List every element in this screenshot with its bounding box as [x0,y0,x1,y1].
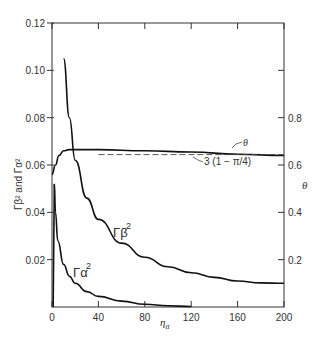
chart: 040801201602000.020.040.060.080.100.120.… [0,0,322,348]
x-tick-label: 120 [183,312,200,323]
y-tick-left-label: 0.06 [26,160,46,171]
y-tick-right-label: 0.4 [288,207,302,218]
y-tick-left-label: 0.02 [26,255,46,266]
asymptote-leader [193,157,203,162]
x-tick-label: 200 [276,312,293,323]
x-tick-label: 0 [49,312,55,323]
y-tick-right-label: 0.6 [288,160,302,171]
theta-leader [232,142,242,148]
gamma-beta-sup: 2 [126,221,131,231]
theta-curve-label: θ [243,137,248,148]
y-tick-right-label: 0.2 [288,255,302,266]
y-axis-left-label: Γβ² and Γα² [13,158,24,210]
tick-labels: 040801201602000.020.040.060.080.100.120.… [26,18,303,323]
x-tick-label: 40 [93,312,105,323]
y-tick-right-label: 0.8 [288,113,302,124]
y-tick-left-label: 0.10 [26,65,46,76]
x-axis-label: ηa [160,316,169,331]
x-tick-label: 160 [229,312,246,323]
curve-- [64,59,284,284]
y-tick-left-label: 0.12 [26,18,46,29]
gamma-alpha-sup: 2 [86,261,91,271]
x-tick-label: 80 [139,312,151,323]
y-axis-right-label: θ [302,179,308,191]
gamma-alpha-spike [53,184,54,307]
curve-- [54,184,191,307]
y-tick-left-label: 0.04 [26,207,46,218]
asymptote-label: 3 (1 − π/4) [204,156,251,167]
y-tick-left-label: 0.08 [26,113,46,124]
